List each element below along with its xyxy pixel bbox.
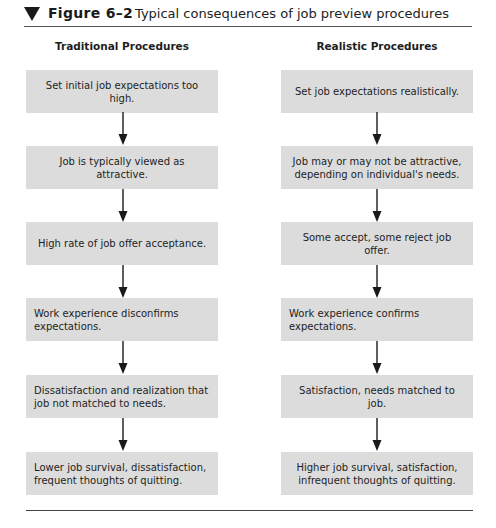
triangle-down-icon bbox=[24, 7, 40, 21]
flow-box-text: Job may or may not be attractive, depend… bbox=[289, 155, 465, 181]
flow-box: Work experience confirms expectations. bbox=[281, 298, 473, 341]
arrow-down-icon bbox=[372, 112, 382, 146]
arrow-down-icon bbox=[372, 418, 382, 452]
column-header-realistic: Realistic Procedures bbox=[281, 40, 473, 52]
flow-box-text: Set initial job expectations too high. bbox=[34, 79, 210, 105]
flow-box: Job may or may not be attractive, depend… bbox=[281, 146, 473, 189]
flow-box: Satisfaction, needs matched to job. bbox=[281, 375, 473, 418]
footer-divider bbox=[26, 510, 473, 511]
arrow-down-icon bbox=[372, 265, 382, 299]
flow-box-text: Satisfaction, needs matched to job. bbox=[289, 384, 465, 410]
flow-box-text: Job is typically viewed as attractive. bbox=[34, 155, 210, 181]
flow-box: Set job expectations realistically. bbox=[281, 70, 473, 113]
flow-box: Higher job survival, satisfaction, infre… bbox=[281, 452, 473, 495]
flow-box-text: Dissatisfaction and realization that job… bbox=[34, 384, 210, 410]
column-header-traditional: Traditional Procedures bbox=[26, 40, 218, 52]
flow-box-text: High rate of job offer acceptance. bbox=[38, 237, 206, 250]
flow-box: Work experience disconfirms expectations… bbox=[26, 298, 218, 341]
flow-box: Set initial job expectations too high. bbox=[26, 70, 218, 113]
flow-box: High rate of job offer acceptance. bbox=[26, 222, 218, 265]
flow-box-text: Work experience disconfirms expectations… bbox=[34, 307, 210, 333]
figure-title: Typical consequences of job preview proc… bbox=[135, 6, 449, 21]
arrow-down-icon bbox=[118, 341, 128, 375]
arrow-down-icon bbox=[118, 418, 128, 452]
figure-number: Figure 6–2 bbox=[48, 5, 133, 21]
figure-header: Figure 6–2 Typical consequences of job p… bbox=[24, 4, 472, 27]
flow-box-text: Work experience confirms expectations. bbox=[289, 307, 465, 333]
flow-box-text: Lower job survival, dissatisfaction, fre… bbox=[34, 461, 210, 487]
flow-box: Some accept, some reject job offer. bbox=[281, 222, 473, 265]
arrow-down-icon bbox=[372, 189, 382, 223]
flow-box-text: Some accept, some reject job offer. bbox=[289, 231, 465, 257]
arrow-down-icon bbox=[372, 341, 382, 375]
arrow-down-icon bbox=[118, 189, 128, 223]
flow-box-text: Set job expectations realistically. bbox=[295, 85, 459, 98]
flow-box-text: Higher job survival, satisfaction, infre… bbox=[289, 461, 465, 487]
flow-box: Job is typically viewed as attractive. bbox=[26, 146, 218, 189]
flow-box: Lower job survival, dissatisfaction, fre… bbox=[26, 452, 218, 495]
arrow-down-icon bbox=[118, 265, 128, 299]
arrow-down-icon bbox=[118, 112, 128, 146]
flow-box: Dissatisfaction and realization that job… bbox=[26, 375, 218, 418]
